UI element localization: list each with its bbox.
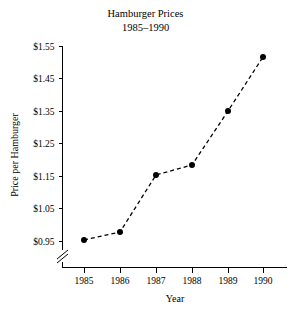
x-tick-label: 1986 [111, 276, 130, 286]
data-point-marker [189, 162, 195, 168]
y-tick-label: $1.55 [33, 42, 55, 52]
x-axis-title: Year [166, 293, 185, 304]
data-point-marker [153, 172, 159, 178]
y-tick-label: $1.15 [33, 172, 55, 182]
data-point-marker [260, 54, 266, 60]
chart-container: Hamburger Prices 1985–1990 Price per Ham… [0, 0, 291, 315]
y-tick-label: $1.05 [33, 204, 55, 214]
data-point-marker [225, 108, 231, 114]
data-point-marker [117, 229, 123, 235]
price-series-markers [81, 54, 266, 243]
x-axis-ticks: 198519861987198819891990 [75, 268, 273, 286]
hamburger-prices-line-chart: Hamburger Prices 1985–1990 Price per Ham… [0, 0, 291, 315]
chart-subtitle: 1985–1990 [122, 22, 169, 33]
x-tick-label: 1985 [75, 276, 94, 286]
x-tick-label: 1990 [254, 276, 273, 286]
y-tick-label: $1.45 [33, 74, 55, 84]
y-tick-label: $1.35 [33, 107, 55, 117]
y-axis-title: Price per Hamburger [9, 112, 20, 196]
chart-title: Hamburger Prices [108, 8, 184, 19]
price-series-line [84, 57, 263, 240]
x-tick-label: 1987 [147, 276, 166, 286]
y-axis-ticks: $1.55$1.45$1.35$1.25$1.15$1.05$0.95 [33, 42, 62, 247]
x-tick-label: 1988 [183, 276, 202, 286]
y-axis-break-icon [57, 250, 68, 263]
x-tick-label: 1989 [219, 276, 238, 286]
y-tick-label: $1.25 [33, 139, 55, 149]
y-tick-label: $0.95 [33, 237, 55, 247]
data-point-marker [81, 237, 87, 243]
